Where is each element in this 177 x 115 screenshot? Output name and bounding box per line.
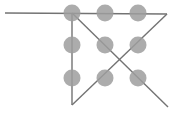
dot-r3c1: [64, 70, 81, 87]
dot-r3c3: [130, 70, 147, 87]
dot-r3c2: [97, 70, 114, 87]
figure-svg: [0, 0, 177, 115]
dot-r1c3: [130, 5, 147, 22]
dot-r1c2: [97, 5, 114, 22]
dot-r2c3: [130, 37, 147, 54]
dot-r1c1: [64, 5, 81, 22]
dot-r2c2: [97, 37, 114, 54]
dots-group: [64, 5, 147, 87]
figure-canvas: [0, 0, 177, 115]
segments-group: [5, 13, 168, 107]
dot-r2c1: [64, 37, 81, 54]
